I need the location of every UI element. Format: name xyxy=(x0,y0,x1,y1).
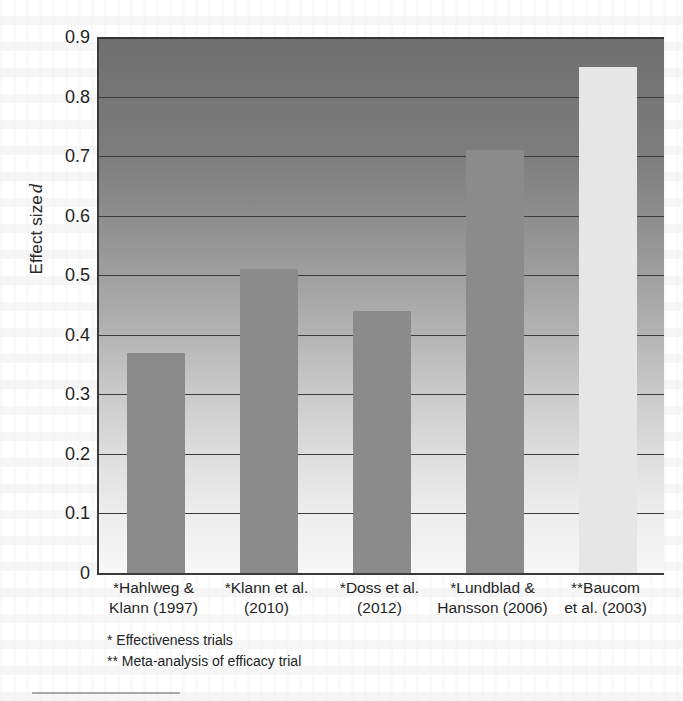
bar xyxy=(127,353,185,573)
page-bottom-rule xyxy=(32,692,180,694)
footnote-effectiveness: * Effectiveness trials xyxy=(107,630,301,651)
y-tick-label: 0.4 xyxy=(44,326,90,344)
x-tick-label-line2: (2010) xyxy=(204,598,329,618)
x-tick-label-line2: et al. (2003) xyxy=(543,598,668,618)
x-tick-label-line1: *Lundblad & xyxy=(450,579,534,596)
x-tick-label-line2: (2012) xyxy=(317,598,442,618)
bar xyxy=(353,311,411,573)
x-tick-label-line1: **Baucom xyxy=(571,579,640,596)
x-tick-label: *Doss et al.(2012) xyxy=(317,578,442,617)
bar xyxy=(240,269,298,573)
bars-layer xyxy=(99,37,664,573)
x-tick-label-line1: *Klann et al. xyxy=(225,579,309,596)
x-tick-label: *Hahlweg &Klann (1997) xyxy=(91,578,216,617)
bar xyxy=(466,150,524,573)
chart-footnotes: * Effectiveness trials ** Meta-analysis … xyxy=(107,630,301,672)
plot-area xyxy=(97,37,664,575)
y-tick-label: 0.9 xyxy=(44,28,90,46)
y-axis-tick-labels: 0.90.80.70.60.50.40.30.20.10 xyxy=(38,0,90,701)
x-tick-label: **Baucomet al. (2003) xyxy=(543,578,668,617)
bar xyxy=(579,67,637,573)
y-tick-label: 0 xyxy=(44,564,90,582)
x-tick-label: *Lundblad &Hansson (2006) xyxy=(430,578,555,617)
y-tick-label: 0.2 xyxy=(44,445,90,463)
y-tick-label: 0.6 xyxy=(44,207,90,225)
x-tick-label-line2: Klann (1997) xyxy=(91,598,216,618)
y-tick-label: 0.8 xyxy=(44,88,90,106)
x-axis-tick-labels: *Hahlweg &Klann (1997)*Klann et al.(2010… xyxy=(97,578,662,628)
y-tick-label: 0.3 xyxy=(44,385,90,403)
y-tick-label: 0.1 xyxy=(44,504,90,522)
y-tick-label: 0.5 xyxy=(44,266,90,284)
x-tick-label-line1: *Hahlweg & xyxy=(113,579,194,596)
y-tick-label: 0.7 xyxy=(44,147,90,165)
effect-size-bar-chart: Effect sized 0.90.80.70.60.50.40.30.20.1… xyxy=(0,0,683,701)
x-tick-label-line2: Hansson (2006) xyxy=(430,598,555,618)
x-tick-label: *Klann et al.(2010) xyxy=(204,578,329,617)
footnote-meta-analysis: ** Meta-analysis of efficacy trial xyxy=(107,651,301,672)
x-tick-label-line1: *Doss et al. xyxy=(340,579,419,596)
